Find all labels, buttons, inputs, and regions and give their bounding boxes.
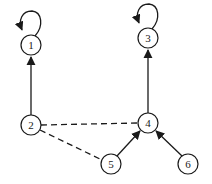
edge-5-to-4: [117, 131, 140, 156]
graph-canvas: 1 2 3 4 5 6: [0, 0, 212, 184]
node-6[interactable]: 6: [178, 154, 198, 174]
edge-2-4-dashed: [41, 123, 138, 125]
self-loop-1: [20, 11, 40, 36]
node-label-4: 4: [145, 117, 151, 129]
node-1[interactable]: 1: [21, 35, 41, 55]
node-label-6: 6: [185, 158, 191, 170]
node-label-3: 3: [145, 32, 151, 44]
self-loop-3: [137, 4, 157, 29]
node-4[interactable]: 4: [138, 113, 158, 133]
edge-2-5-dashed: [40, 130, 102, 160]
graph-svg: 1 2 3 4 5 6: [0, 0, 212, 184]
node-2[interactable]: 2: [21, 115, 41, 135]
node-3[interactable]: 3: [138, 28, 158, 48]
node-5[interactable]: 5: [101, 154, 121, 174]
node-label-2: 2: [28, 119, 34, 131]
node-label-5: 5: [108, 158, 114, 170]
node-label-1: 1: [28, 39, 34, 51]
edge-6-to-4: [156, 131, 182, 156]
